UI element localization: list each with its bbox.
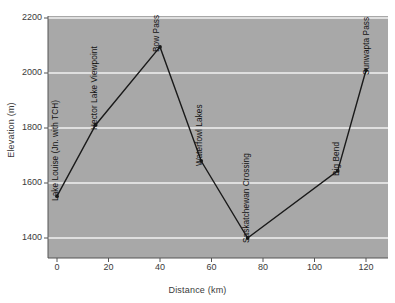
x-axis-tick-marks [57,258,366,262]
plot-background [48,16,388,258]
data-point-label: Bow Pass [152,15,161,52]
data-point-label: Big Bend [332,142,341,176]
data-point-label: Hector Lake Viewpoint [90,46,99,130]
data-point-label: Saskatchewan Crossing [242,153,251,243]
data-point-label: Sunwapta Pass [362,17,371,75]
elevation-profile-chart: Elevation (m) Distance (km) 220020001800… [0,0,395,303]
y-axis-tick-marks [44,18,48,238]
data-point-label: Lake Louise (Jn. with TCH) [51,100,60,201]
data-point-label: Waterfowl Lakes [195,104,204,166]
